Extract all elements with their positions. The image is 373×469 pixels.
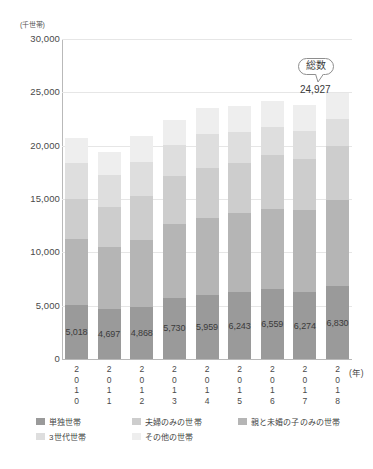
- bar-segment: [65, 138, 88, 163]
- bar-segment: [261, 155, 284, 208]
- value-label: 4,697: [98, 329, 120, 339]
- legend-row-2: 3世代世帯 その他の世帯: [36, 431, 356, 442]
- bar-segment: [326, 93, 349, 119]
- total-callout-label: 総数: [306, 60, 326, 71]
- bar-segment: [130, 196, 153, 240]
- y-axis-tick-label: 10,000: [4, 246, 60, 257]
- legend-swatch-couple: [132, 418, 141, 425]
- bar-segment: [196, 218, 219, 295]
- total-value-label: 24,927: [300, 84, 331, 95]
- value-label: 5,730: [163, 323, 185, 333]
- bar-segment: [196, 134, 219, 167]
- bar-segment: [228, 106, 251, 132]
- value-label: 6,559: [261, 319, 283, 329]
- bar-segment: [65, 163, 88, 199]
- value-label: 5,959: [196, 322, 218, 332]
- bar-segment: [98, 247, 121, 309]
- chart-legend: 単独世帯 夫婦のみの世帯 親と未婚の子のみの世帯 3世代世帯 その他の世帯: [36, 416, 356, 446]
- x-axis-tick-label: 2013: [163, 364, 186, 406]
- legend-item-single: 単独世帯: [36, 416, 122, 427]
- bar-segment: [130, 240, 153, 308]
- bar-segment: [326, 146, 349, 201]
- bar-segment: [261, 209, 284, 289]
- x-axis-tick-label: 2011: [98, 364, 121, 406]
- bar-2011: [98, 152, 121, 359]
- x-axis-tick-label: 2012: [130, 364, 153, 406]
- total-callout-tail-icon: [315, 74, 324, 83]
- x-axis-line: [62, 359, 352, 360]
- legend-item-threegen: 3世代世帯: [36, 431, 122, 442]
- bar-segment: [65, 239, 88, 305]
- bar-segment: [293, 210, 316, 292]
- x-axis-tick-label: 2014: [196, 364, 219, 406]
- bar-segment: [130, 136, 153, 162]
- bar-segment: [130, 162, 153, 196]
- x-axis-tick-label: 2018: [326, 364, 349, 406]
- bar-segment: [228, 213, 251, 293]
- y-axis-tick-label: 5,000: [4, 300, 60, 311]
- legend-label-parentchild: 親と未婚の子のみの世帯: [251, 416, 340, 427]
- bar-segment: [326, 119, 349, 146]
- legend-swatch-threegen: [36, 433, 45, 440]
- value-label: 5,018: [65, 327, 87, 337]
- y-axis-tick-label: 20,000: [4, 140, 60, 151]
- value-label: 4,868: [131, 328, 153, 338]
- y-axis-tick-label: 25,000: [4, 86, 60, 97]
- household-composition-stacked-bar-chart: (千世帯) 30,00025,00020,00015,00010,0005,00…: [0, 0, 373, 469]
- legend-swatch-other: [132, 433, 141, 440]
- x-axis-tick-label: 2017: [293, 364, 316, 406]
- legend-label-other: その他の世帯: [145, 431, 194, 442]
- bar-segment: [228, 163, 251, 213]
- x-axis-tick-label: 2016: [261, 364, 284, 406]
- bar-segment: [196, 168, 219, 219]
- legend-label-threegen: 3世代世帯: [49, 431, 86, 442]
- bar-segment: [98, 152, 121, 175]
- bar-segment: [163, 224, 186, 298]
- bar-segment: [261, 101, 284, 127]
- legend-item-parentchild: 親と未婚の子のみの世帯: [238, 416, 340, 427]
- legend-row-1: 単独世帯 夫婦のみの世帯 親と未婚の子のみの世帯: [36, 416, 356, 427]
- bar-segment: [293, 159, 316, 209]
- bar-segment: [98, 175, 121, 207]
- value-label: 6,830: [326, 318, 348, 328]
- value-label: 6,274: [294, 321, 316, 331]
- legend-label-single: 単独世帯: [49, 416, 81, 427]
- y-axis-tick-label: 15,000: [4, 193, 60, 204]
- bar-segment: [293, 105, 316, 131]
- x-axis-tick-label: 2010: [65, 364, 88, 406]
- y-axis-tick-labels: 30,00025,00020,00015,00010,0005,0000: [0, 39, 60, 360]
- x-axis-tick-label: 2015: [228, 364, 251, 406]
- bar-segment: [326, 200, 349, 286]
- legend-label-couple: 夫婦のみの世帯: [145, 416, 202, 427]
- y-axis-tick-label: 30,000: [4, 33, 60, 44]
- bar-segment: [163, 120, 186, 145]
- bar-segment: [163, 145, 186, 176]
- legend-swatch-single: [36, 418, 45, 425]
- bar-segment: [228, 132, 251, 163]
- value-label: 6,243: [229, 321, 251, 331]
- y-axis-tick-label: 0: [4, 353, 60, 364]
- gridline: [62, 39, 352, 40]
- bar-segment: [261, 127, 284, 155]
- legend-item-couple: 夫婦のみの世帯: [132, 416, 228, 427]
- y-axis-unit-label: (千世帯): [20, 19, 45, 29]
- legend-item-other: その他の世帯: [132, 431, 228, 442]
- bar-2010: [65, 138, 88, 359]
- bar-2012: [130, 136, 153, 359]
- bar-segment: [65, 199, 88, 240]
- bar-segment: [98, 207, 121, 247]
- x-axis-unit-label: (年): [349, 366, 364, 378]
- legend-swatch-parentchild: [238, 418, 247, 425]
- bar-segment: [196, 108, 219, 135]
- bar-segment: [163, 176, 186, 223]
- total-callout-box: 総数: [298, 58, 334, 75]
- bar-segment: [293, 131, 316, 159]
